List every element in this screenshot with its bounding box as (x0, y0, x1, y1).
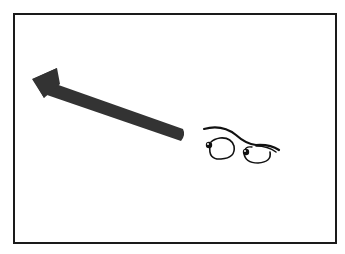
right-pupil (243, 149, 249, 155)
arrow-up-left-icon (32, 68, 184, 141)
left-pupil (206, 142, 212, 148)
illustration-canvas (0, 0, 345, 254)
cartoon-eyes-icon (204, 127, 279, 163)
pupils (206, 142, 249, 155)
